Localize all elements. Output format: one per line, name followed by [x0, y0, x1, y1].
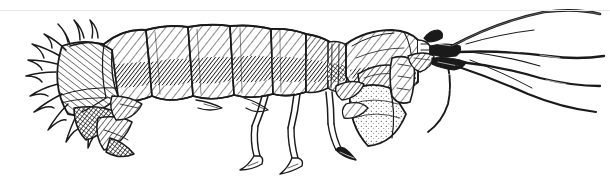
top-rule-divider	[0, 10, 610, 11]
pleopods	[196, 98, 268, 112]
mantis-shrimp-drawing	[0, 0, 610, 178]
eye-stalk	[424, 30, 443, 42]
drawing-ink-group	[26, 10, 604, 174]
antennae	[428, 10, 604, 132]
abdomen-segments	[104, 25, 330, 102]
illustration-figure: Black and white ink drawing of a mantis …	[0, 0, 610, 178]
walking-leg-2	[280, 94, 303, 174]
